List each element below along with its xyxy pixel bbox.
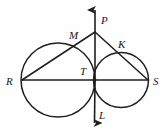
point-label-L: L <box>99 110 105 121</box>
point-label-P: P <box>101 15 108 26</box>
point-label-K: K <box>118 39 125 50</box>
point-label-S: S <box>153 76 159 87</box>
point-label-M: M <box>69 30 78 41</box>
point-T-marker <box>94 79 97 82</box>
point-label-T: T <box>80 66 86 77</box>
geometry-figure: P M K R T S L <box>0 0 167 134</box>
line-segment-PL-lower <box>95 80 96 123</box>
point-label-R: R <box>6 76 13 87</box>
